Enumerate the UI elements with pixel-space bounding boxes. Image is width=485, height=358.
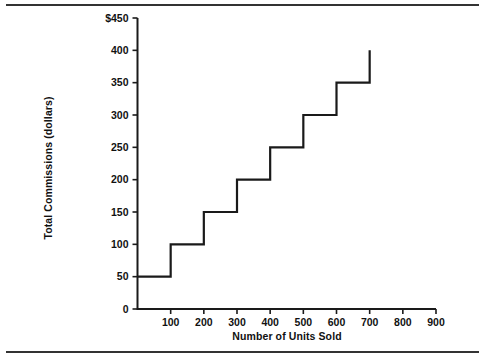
y-axis-tick-labels: 050100150200250300350400$450	[105, 12, 129, 315]
y-tick-label: 0	[123, 303, 129, 315]
y-tick-label: 100	[111, 238, 129, 250]
y-tick-label: 250	[111, 141, 129, 153]
y-tick-label: 400	[111, 44, 129, 56]
y-tick-label: 200	[111, 173, 129, 185]
x-tick-label: 500	[295, 316, 313, 328]
x-tick-label: 300	[228, 316, 246, 328]
bottom-horizontal-rule	[6, 351, 479, 353]
y-tick-label: 300	[111, 109, 129, 121]
x-tick-label: 600	[328, 316, 346, 328]
y-tick-label: 50	[117, 270, 129, 282]
x-axis-label: Number of Units Sold	[137, 330, 437, 342]
x-tick-label: 100	[162, 316, 180, 328]
y-tick-label: 150	[111, 206, 129, 218]
x-tick-label: 800	[394, 316, 412, 328]
y-tick-label: $450	[105, 12, 129, 24]
figure-container: 050100150200250300350400$450 10020030040…	[0, 0, 485, 358]
step-chart-plot: 050100150200250300350400$450 10020030040…	[0, 0, 485, 358]
chart-svg: 050100150200250300350400$450 10020030040…	[0, 0, 485, 358]
x-axis-tick-labels: 100200300400500600700800900	[162, 316, 445, 328]
y-axis-label: Total Commissions (dollars)	[42, 68, 54, 268]
x-tick-label: 700	[361, 316, 379, 328]
chart-axes	[138, 18, 437, 310]
y-tick-label: 350	[111, 76, 129, 88]
x-tick-label: 200	[195, 316, 213, 328]
step-function-line	[138, 50, 370, 276]
x-tick-label: 400	[261, 316, 279, 328]
x-tick-label: 900	[427, 316, 445, 328]
